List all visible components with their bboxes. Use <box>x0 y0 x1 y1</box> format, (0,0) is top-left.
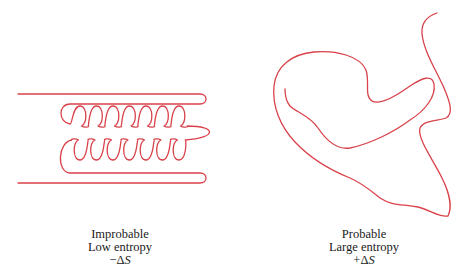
caption-probable: Probable Large entropy +ΔS <box>284 228 444 267</box>
ordered-chain <box>18 94 210 183</box>
caption-improbable: Improbable Low entropy −ΔS <box>40 228 200 267</box>
caption-right-delta-s: +ΔS <box>284 254 444 267</box>
entropy-var: S <box>124 253 130 267</box>
entropy-var: S <box>368 253 374 267</box>
coiled-chain-path <box>18 94 210 183</box>
disordered-chain <box>274 13 451 216</box>
caption-left-delta-s: −ΔS <box>40 254 200 267</box>
